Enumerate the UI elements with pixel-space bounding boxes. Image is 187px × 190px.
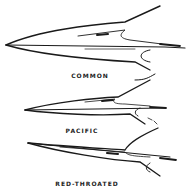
bill-diagram	[0, 0, 187, 190]
pacific-bill-drawing	[25, 80, 166, 124]
label-red-throated: RED-THROATED	[55, 180, 118, 187]
common-bill-drawing	[6, 6, 185, 80]
label-common: COMMON	[71, 72, 109, 79]
red-throated-bill-drawing	[28, 128, 176, 176]
label-pacific: PACIFIC	[66, 127, 99, 134]
